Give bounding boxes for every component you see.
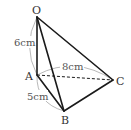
measure-label-ac: 8cm — [62, 61, 84, 72]
edge-ac — [37, 75, 113, 80]
measure-label-ab: 5cm — [27, 91, 49, 102]
vertex-label-a: A — [24, 70, 34, 83]
measure-label-oa: 6cm — [14, 37, 36, 48]
edge-bc — [64, 80, 113, 111]
pyramid-diagram: O A B C 6cm 8cm 5cm — [0, 0, 131, 130]
vertex-label-o: O — [32, 4, 41, 17]
vertex-label-b: B — [61, 114, 69, 127]
vertex-label-c: C — [116, 75, 124, 88]
